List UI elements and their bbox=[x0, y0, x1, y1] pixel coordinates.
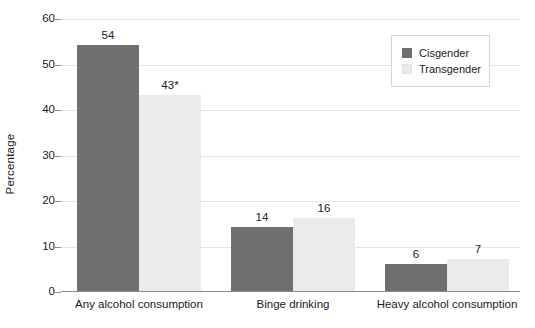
y-axis-tick-labels: 0102030405060 bbox=[15, 19, 55, 292]
bar[interactable] bbox=[385, 264, 447, 291]
bar-value-label: 54 bbox=[77, 30, 139, 42]
y-axis-tick-mark bbox=[55, 19, 61, 20]
y-axis-tick-mark bbox=[55, 156, 61, 157]
bar[interactable] bbox=[293, 218, 355, 291]
legend-swatch-cisgender bbox=[402, 48, 412, 58]
y-axis-tick-mark bbox=[55, 110, 61, 111]
bar[interactable] bbox=[447, 259, 509, 291]
legend-label-cisgender: Cisgender bbox=[419, 48, 469, 59]
legend: Cisgender Transgender bbox=[391, 35, 490, 87]
y-axis-tick-mark bbox=[55, 292, 61, 293]
y-axis-tick-label: 60 bbox=[21, 13, 55, 25]
bar-value-label: 6 bbox=[385, 249, 447, 261]
legend-swatch-transgender bbox=[402, 64, 412, 74]
x-axis-line bbox=[61, 291, 520, 292]
y-axis-tick-label: 50 bbox=[21, 59, 55, 71]
y-axis-tick-label: 40 bbox=[21, 104, 55, 116]
y-axis-tick-label: 20 bbox=[21, 195, 55, 207]
bar[interactable] bbox=[231, 227, 293, 291]
x-axis-category-label: Heavy alcohol consumption bbox=[337, 299, 535, 311]
bar[interactable] bbox=[139, 95, 201, 291]
y-axis-tick-label: 0 bbox=[21, 286, 55, 298]
bar-value-label: 43* bbox=[139, 80, 201, 92]
legend-item-transgender[interactable]: Transgender bbox=[402, 61, 480, 77]
y-axis-tick-mark bbox=[55, 201, 61, 202]
y-axis-tick-mark bbox=[55, 65, 61, 66]
legend-label-transgender: Transgender bbox=[419, 64, 481, 75]
bar-value-label: 16 bbox=[293, 203, 355, 215]
y-axis-tick-label: 10 bbox=[21, 241, 55, 253]
y-axis-tick-label: 30 bbox=[21, 150, 55, 162]
bar[interactable] bbox=[77, 45, 139, 291]
bar-value-label: 7 bbox=[447, 244, 509, 256]
y-axis-tick-mark bbox=[55, 247, 61, 248]
bar-chart: Percentage 0102030405060 5443*141667 Any… bbox=[0, 0, 535, 328]
legend-item-cisgender[interactable]: Cisgender bbox=[402, 45, 480, 61]
gridline bbox=[61, 19, 520, 20]
bar-value-label: 14 bbox=[231, 212, 293, 224]
